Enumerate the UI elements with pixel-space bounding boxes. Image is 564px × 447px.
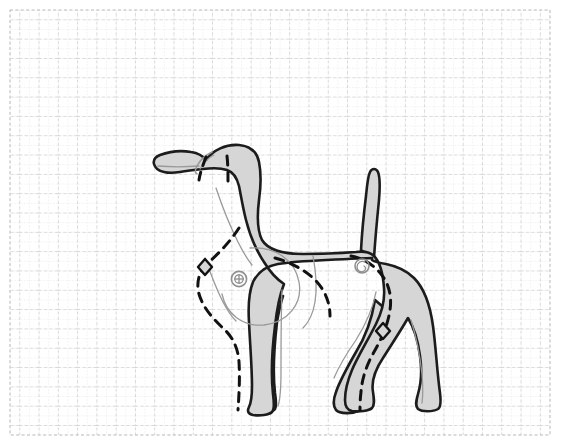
grid-fill (10, 10, 550, 435)
diagram-canvas: Dog Model Construction Diagram left late… (0, 0, 564, 447)
graph-paper-grid (10, 10, 550, 435)
dog-diagram-svg (0, 0, 564, 447)
